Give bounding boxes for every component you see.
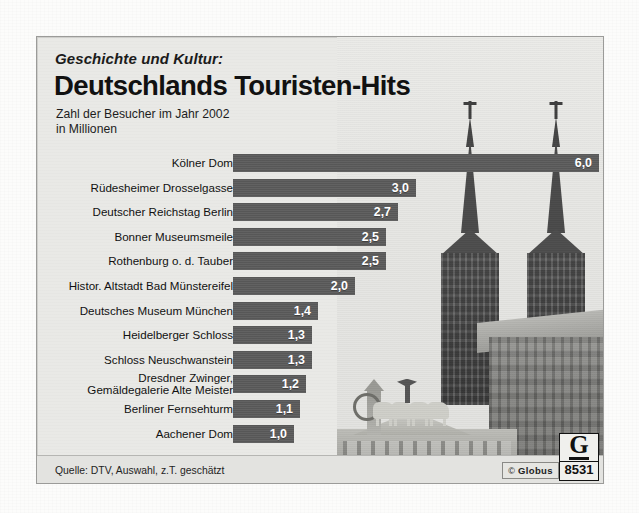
bar-label-line-1: Heidelberger Schloss — [123, 328, 233, 341]
bar: 1,4 — [233, 302, 318, 320]
bar: 1,3 — [233, 351, 312, 369]
chart-row: Schloss Neuschwanstein1,3 — [37, 351, 603, 369]
chart-row: Histor. Altstadt Bad Münstereifel2,0 — [37, 277, 603, 295]
bar-value-label: 2,0 — [331, 279, 348, 293]
bar-label-line-1: Kölner Dom — [172, 156, 233, 169]
bar-value-label: 1,3 — [288, 328, 305, 342]
bar-label-line-1: Berliner Fernsehturm — [124, 402, 233, 415]
bar-chart: Kölner Dom6,0Rüdesheimer Drosselgasse3,0… — [37, 150, 603, 440]
chart-row: Bonner Museumsmeile2,5 — [37, 228, 603, 246]
chart-row: Kölner Dom6,0 — [37, 154, 603, 172]
globus-credit: © Globus — [502, 462, 559, 479]
subtitle-line-2: in Millionen — [56, 122, 117, 136]
bar-label-line-2: Gemäldegalerie Alte Meister — [87, 384, 233, 396]
bar-label: Aachener Dom — [156, 428, 233, 440]
bar-value-label: 2,5 — [362, 254, 379, 268]
globus-g-icon: G — [569, 433, 588, 457]
subtitle-line-1: Zahl der Besucher im Jahr 2002 — [56, 107, 229, 121]
bar-value-label: 1,2 — [282, 377, 299, 391]
bar-label-line-1: Histor. Altstadt Bad Münstereifel — [69, 279, 233, 292]
chart-row: Deutscher Reichstag Berlin2,7 — [37, 203, 603, 221]
chart-row: Rothenburg o. d. Tauber2,5 — [37, 252, 603, 270]
chart-row: Heidelberger Schloss1,3 — [37, 326, 603, 344]
bar-label: Kölner Dom — [172, 157, 233, 169]
bar-value-label: 2,7 — [374, 205, 391, 219]
bar-label-line-1: Rüdesheimer Drosselgasse — [91, 181, 233, 194]
bar-label: Bonner Museumsmeile — [114, 231, 233, 243]
bar-label: Deutsches Museum München — [80, 305, 233, 317]
bar: 1,2 — [233, 375, 306, 393]
bar-value-label: 6,0 — [575, 156, 592, 170]
bar-label-line-1: Bonner Museumsmeile — [114, 230, 233, 243]
source-note: Quelle: DTV, Auswahl, z.T. geschätzt — [55, 464, 224, 475]
bar: 6,0 — [233, 154, 599, 172]
bar: 2,7 — [233, 203, 398, 221]
bar: 3,0 — [233, 179, 416, 197]
bar-label: Berliner Fernsehturm — [124, 403, 233, 415]
bar-label-line-1: Deutscher Reichstag Berlin — [93, 205, 233, 218]
page-title: Deutschlands Touristen-Hits — [54, 70, 410, 102]
bar: 1,0 — [233, 425, 294, 443]
bar-value-label: 1,3 — [288, 353, 305, 367]
infographic-card: Geschichte und Kultur: Deutschlands Tour… — [36, 36, 604, 484]
bar-label: Schloss Neuschwanstein — [104, 354, 233, 366]
bar-label: Rothenburg o. d. Tauber — [108, 256, 233, 268]
bar-value-label: 1,1 — [276, 402, 293, 416]
chart-row: Deutsches Museum München1,4 — [37, 302, 603, 320]
chart-footer: Quelle: DTV, Auswahl, z.T. geschätzt © G… — [37, 455, 603, 483]
globus-number: 8531 — [560, 461, 598, 477]
bar: 2,0 — [233, 277, 355, 295]
bar-value-label: 1,0 — [270, 427, 287, 441]
bar: 2,5 — [233, 228, 386, 246]
bar-label: Rüdesheimer Drosselgasse — [91, 182, 233, 194]
bar-value-label: 2,5 — [362, 230, 379, 244]
globus-logo: G 8531 — [559, 433, 599, 481]
infographic-page: Geschichte und Kultur: Deutschlands Tour… — [0, 0, 639, 513]
chart-subtitle: Zahl der Besucher im Jahr 2002 in Millio… — [56, 107, 229, 136]
bar-label: Dresdner Zwinger,Gemäldegalerie Alte Mei… — [87, 373, 233, 396]
bar-label-line-1: Rothenburg o. d. Tauber — [108, 255, 233, 268]
chart-row: Berliner Fernsehturm1,1 — [37, 400, 603, 418]
globus-brand-label: Globus — [518, 465, 553, 476]
bar-label-line-1: Schloss Neuschwanstein — [104, 353, 233, 366]
globus-underline — [569, 457, 589, 460]
chart-row: Aachener Dom1,0 — [37, 425, 603, 443]
bar-label: Histor. Altstadt Bad Münstereifel — [69, 280, 233, 292]
bar-label: Heidelberger Schloss — [123, 329, 233, 341]
bar-label: Deutscher Reichstag Berlin — [93, 206, 233, 218]
kicker-text: Geschichte und Kultur: — [55, 50, 223, 67]
bar: 1,1 — [233, 400, 300, 418]
bar-label-line-1: Aachener Dom — [156, 427, 233, 440]
bar: 2,5 — [233, 252, 386, 270]
chart-row: Dresdner Zwinger,Gemäldegalerie Alte Mei… — [37, 375, 603, 393]
bar-label-line-1: Deutsches Museum München — [80, 304, 233, 317]
copyright-symbol: © — [508, 466, 515, 476]
chart-row: Rüdesheimer Drosselgasse3,0 — [37, 179, 603, 197]
bar: 1,3 — [233, 326, 312, 344]
bar-value-label: 1,4 — [294, 304, 311, 318]
bar-value-label: 3,0 — [392, 181, 409, 195]
